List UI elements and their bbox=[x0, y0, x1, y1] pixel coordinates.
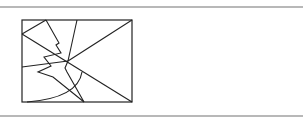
diagram-zigzags bbox=[38, 20, 84, 102]
line-center-to-top-right bbox=[68, 20, 132, 61]
bottom-rule bbox=[0, 115, 303, 117]
line-left-to-top bbox=[22, 20, 46, 34]
line-left-to-bottom-right bbox=[22, 34, 132, 102]
line-top-to-center bbox=[68, 20, 77, 61]
zigzag-center bbox=[65, 61, 84, 102]
line-left-to-center bbox=[22, 61, 68, 67]
geometry-diagram bbox=[0, 0, 303, 117]
diagram-arc bbox=[27, 72, 82, 102]
